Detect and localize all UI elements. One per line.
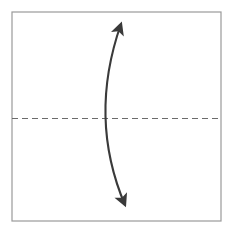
panel-frame [12,12,221,221]
diagram-canvas [0,0,233,228]
diagram-svg [0,0,233,228]
